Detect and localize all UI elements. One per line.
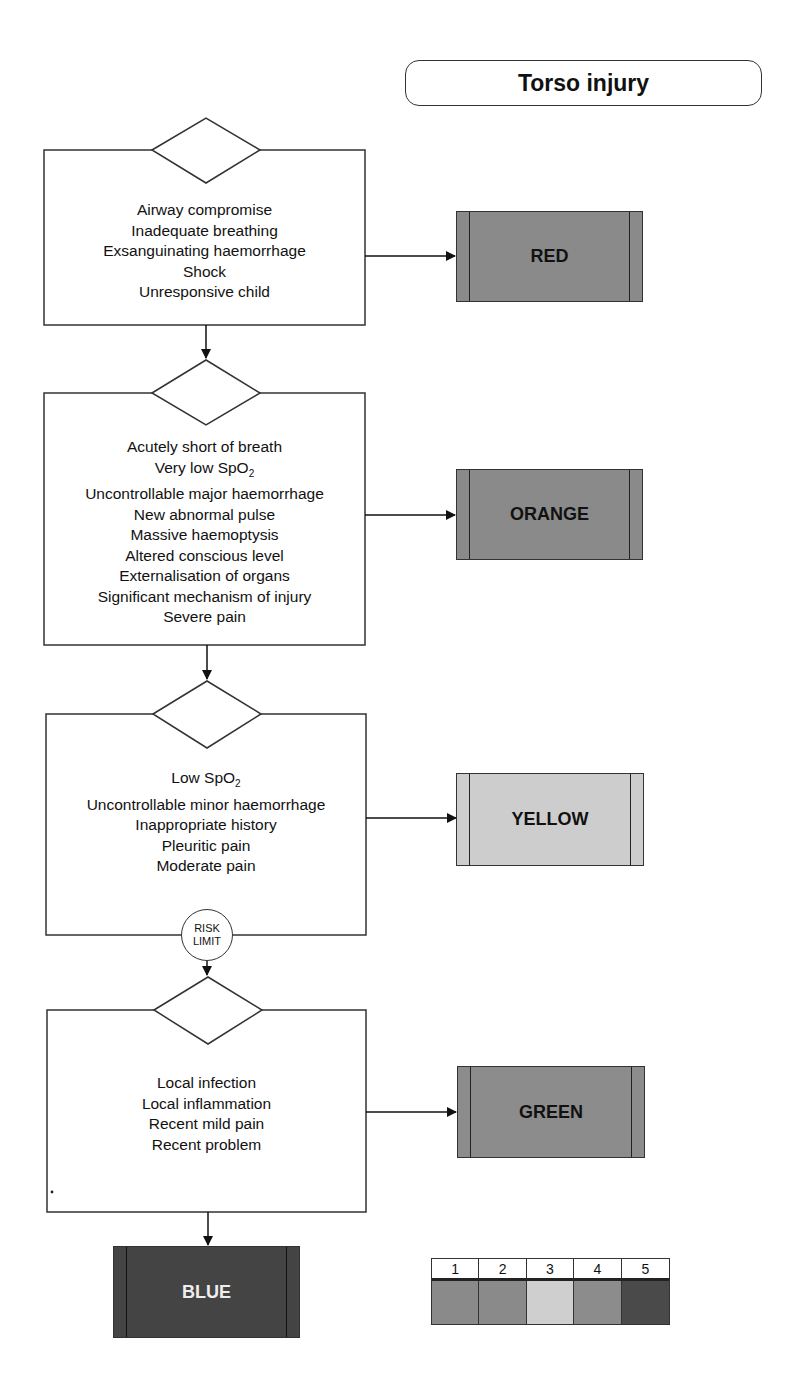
legend-number: 2 — [479, 1259, 526, 1281]
legend-number: 5 — [622, 1259, 669, 1281]
stray-dot — [51, 1191, 54, 1194]
legend-swatch — [432, 1281, 479, 1324]
priority-blue-box: BLUE — [113, 1246, 300, 1338]
legend-number: 3 — [527, 1259, 574, 1281]
priority-orange-box: ORANGE — [456, 469, 643, 560]
legend-swatch — [527, 1281, 574, 1324]
chart-title: Torso injury — [405, 60, 762, 106]
priority-yellow-box: YELLOW — [456, 773, 644, 866]
risk-limit-circle: RISK LIMIT — [181, 909, 233, 961]
legend-swatch — [574, 1281, 621, 1324]
criteria-red: Airway compromise Inadequate breathing E… — [44, 200, 365, 303]
legend-swatch — [479, 1281, 526, 1324]
criteria-yellow: Low SpO2 Uncontrollable minor haemorrhag… — [46, 768, 366, 877]
criteria-green: Local infection Local inflammation Recen… — [47, 1073, 366, 1155]
criteria-orange: Acutely short of breath Very low SpO2 Un… — [44, 437, 365, 628]
legend-number: 1 — [432, 1259, 479, 1281]
legend-number: 4 — [574, 1259, 621, 1281]
priority-green-box: GREEN — [457, 1066, 645, 1158]
priority-red-box: RED — [456, 211, 643, 302]
legend-swatch — [622, 1281, 669, 1324]
priority-legend: 1 2 3 4 5 — [431, 1258, 670, 1325]
